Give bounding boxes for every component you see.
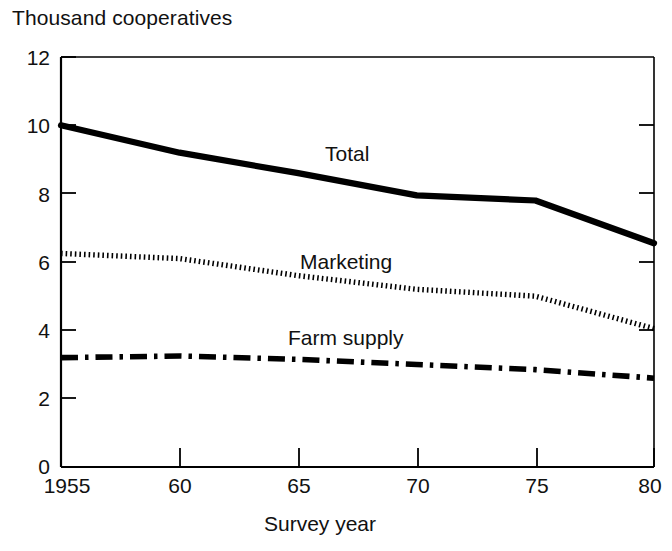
axis-frame [61, 57, 654, 467]
plot-canvas [0, 0, 672, 551]
y-tick-marks [61, 57, 76, 467]
series-group [61, 125, 654, 378]
x-tick-marks [61, 448, 654, 467]
y-tick-marks-right [639, 125, 654, 330]
series-line-farm-supply [61, 356, 654, 378]
series-line-marketing [61, 253, 654, 328]
chart-figure: Thousand cooperatives 12 10 8 6 4 2 0 19… [0, 0, 672, 551]
series-line-total [61, 125, 654, 243]
